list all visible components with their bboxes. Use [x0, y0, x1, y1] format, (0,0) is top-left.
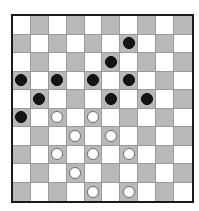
board-square[interactable]: [102, 35, 120, 54]
board-square[interactable]: [67, 183, 85, 202]
board-square[interactable]: [102, 164, 120, 183]
board-square[interactable]: [85, 90, 103, 109]
board-square[interactable]: [67, 146, 85, 165]
black-piece[interactable]: [33, 93, 45, 105]
board-square[interactable]: [174, 90, 192, 109]
board-square[interactable]: [138, 53, 156, 72]
board-square[interactable]: [156, 109, 174, 128]
white-piece[interactable]: [51, 148, 63, 160]
board-square[interactable]: [67, 109, 85, 128]
board-square[interactable]: [102, 183, 120, 202]
board-square[interactable]: [138, 164, 156, 183]
board-square[interactable]: [120, 90, 138, 109]
white-piece[interactable]: [87, 148, 99, 160]
board-square[interactable]: [102, 146, 120, 165]
board-square[interactable]: [31, 127, 49, 146]
board-square[interactable]: [13, 109, 31, 128]
board-square[interactable]: [138, 109, 156, 128]
black-piece[interactable]: [141, 93, 153, 105]
board-square[interactable]: [49, 109, 67, 128]
board-square[interactable]: [120, 72, 138, 91]
board-square[interactable]: [156, 127, 174, 146]
board-square[interactable]: [49, 164, 67, 183]
board-square[interactable]: [31, 109, 49, 128]
board-square[interactable]: [102, 127, 120, 146]
board-square[interactable]: [85, 16, 103, 35]
white-piece[interactable]: [69, 130, 81, 142]
board-square[interactable]: [120, 35, 138, 54]
board-square[interactable]: [85, 109, 103, 128]
board-square[interactable]: [174, 72, 192, 91]
black-piece[interactable]: [15, 74, 27, 86]
white-piece[interactable]: [123, 186, 135, 198]
white-piece[interactable]: [87, 111, 99, 123]
board-square[interactable]: [85, 146, 103, 165]
board-square[interactable]: [174, 53, 192, 72]
board-square[interactable]: [85, 53, 103, 72]
board-square[interactable]: [102, 109, 120, 128]
board-square[interactable]: [49, 16, 67, 35]
black-piece[interactable]: [123, 37, 135, 49]
board-square[interactable]: [13, 127, 31, 146]
board-square[interactable]: [31, 146, 49, 165]
board-square[interactable]: [138, 146, 156, 165]
board-square[interactable]: [13, 146, 31, 165]
board-square[interactable]: [174, 127, 192, 146]
black-piece[interactable]: [105, 56, 117, 68]
board-square[interactable]: [67, 53, 85, 72]
board-square[interactable]: [13, 72, 31, 91]
board-square[interactable]: [102, 16, 120, 35]
board-square[interactable]: [120, 183, 138, 202]
board-square[interactable]: [49, 53, 67, 72]
board-square[interactable]: [156, 35, 174, 54]
board-square[interactable]: [156, 164, 174, 183]
board-square[interactable]: [120, 109, 138, 128]
board-square[interactable]: [49, 127, 67, 146]
board-square[interactable]: [31, 16, 49, 35]
white-piece[interactable]: [51, 111, 63, 123]
board-square[interactable]: [120, 146, 138, 165]
board-square[interactable]: [174, 16, 192, 35]
white-piece[interactable]: [87, 186, 99, 198]
board-square[interactable]: [174, 146, 192, 165]
board-square[interactable]: [156, 146, 174, 165]
board-square[interactable]: [31, 35, 49, 54]
board-square[interactable]: [85, 164, 103, 183]
board-square[interactable]: [31, 183, 49, 202]
black-piece[interactable]: [87, 74, 99, 86]
board-square[interactable]: [85, 127, 103, 146]
board-square[interactable]: [102, 53, 120, 72]
board-square[interactable]: [156, 72, 174, 91]
board-square[interactable]: [13, 35, 31, 54]
board-square[interactable]: [138, 35, 156, 54]
board-square[interactable]: [102, 72, 120, 91]
black-piece[interactable]: [15, 111, 27, 123]
white-piece[interactable]: [69, 167, 81, 179]
board-square[interactable]: [120, 16, 138, 35]
board-square[interactable]: [49, 35, 67, 54]
board-square[interactable]: [138, 72, 156, 91]
board-square[interactable]: [120, 53, 138, 72]
board-square[interactable]: [67, 35, 85, 54]
board-square[interactable]: [85, 183, 103, 202]
board-square[interactable]: [67, 164, 85, 183]
board-square[interactable]: [85, 72, 103, 91]
board-square[interactable]: [49, 72, 67, 91]
board-square[interactable]: [13, 16, 31, 35]
board-square[interactable]: [31, 72, 49, 91]
board-square[interactable]: [138, 183, 156, 202]
board-square[interactable]: [13, 164, 31, 183]
board-square[interactable]: [13, 90, 31, 109]
board-square[interactable]: [13, 183, 31, 202]
black-piece[interactable]: [51, 74, 63, 86]
board-square[interactable]: [49, 90, 67, 109]
black-piece[interactable]: [105, 93, 117, 105]
board-square[interactable]: [156, 53, 174, 72]
board-square[interactable]: [174, 164, 192, 183]
board-square[interactable]: [174, 109, 192, 128]
board-square[interactable]: [174, 35, 192, 54]
white-piece[interactable]: [123, 148, 135, 160]
board-square[interactable]: [67, 90, 85, 109]
board-square[interactable]: [156, 183, 174, 202]
board-square[interactable]: [49, 183, 67, 202]
